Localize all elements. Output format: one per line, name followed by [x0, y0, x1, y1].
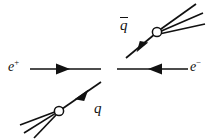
positron-incoming-line: [30, 63, 101, 74]
quark-label: q: [94, 101, 102, 116]
positron-label: e+: [8, 58, 19, 74]
electron-incoming-line: [117, 63, 188, 74]
positron-label-charge: +: [14, 57, 19, 67]
electron-label: e−: [190, 58, 201, 74]
electron-label-charge: −: [196, 57, 201, 67]
feynman-diagram-figure: e+ e− q q: [0, 0, 218, 139]
quark-jet-prongs: [20, 112, 56, 138]
antiquark-hadronization-blob: [152, 27, 161, 36]
quark-arrowhead-icon: [75, 90, 89, 101]
positron-arrowhead-icon: [56, 63, 70, 74]
antiquark-arrowhead-icon: [137, 41, 149, 52]
electron-arrowhead-icon: [148, 63, 162, 74]
quark-hadronization-blob: [54, 106, 63, 115]
quark-jet-prong: [24, 114, 55, 133]
feynman-diagram-canvas: [0, 0, 218, 139]
antiquark-label-base: q: [120, 18, 128, 33]
antiquark-jet-prongs: [161, 4, 205, 34]
quark-label-base: q: [94, 100, 102, 116]
antiquark-outgoing-line: [126, 34, 155, 58]
antiquark-jet-prong: [161, 4, 196, 29]
antiquark-label: q: [120, 18, 128, 33]
